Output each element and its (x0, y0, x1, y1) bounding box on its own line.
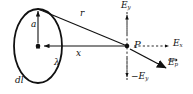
diagram-canvas (0, 0, 193, 94)
ep-subscript: p (175, 61, 179, 67)
ey-positive-subscript: y (128, 4, 131, 10)
ey-negative-symbol: −E (131, 71, 145, 81)
ex-subscript: x (180, 42, 183, 48)
length-element-label: dl (15, 76, 24, 85)
ep-vector-wrapper: Ep (168, 58, 178, 68)
ex-label: Ex (173, 39, 183, 49)
ep-symbol: E (168, 57, 175, 67)
ey-negative-label: −Ey (131, 72, 148, 82)
charge-density-label: λ (54, 58, 60, 67)
x-label: x (76, 49, 81, 58)
ey-positive-label: Ey (121, 1, 131, 11)
ep-arrow (130, 49, 166, 68)
radius-label: a (31, 20, 36, 29)
point-p-label: P (134, 40, 141, 50)
ex-symbol: E (173, 38, 180, 48)
ey-positive-symbol: E (121, 0, 128, 10)
ring-center-dot (36, 44, 41, 49)
physics-diagram-charged-ring: a r x λ dl P Ey −Ey Ex Ep (0, 0, 193, 94)
ey-negative-subscript: y (145, 75, 148, 81)
ep-label: Ep (168, 58, 178, 68)
r-label: r (80, 9, 84, 18)
